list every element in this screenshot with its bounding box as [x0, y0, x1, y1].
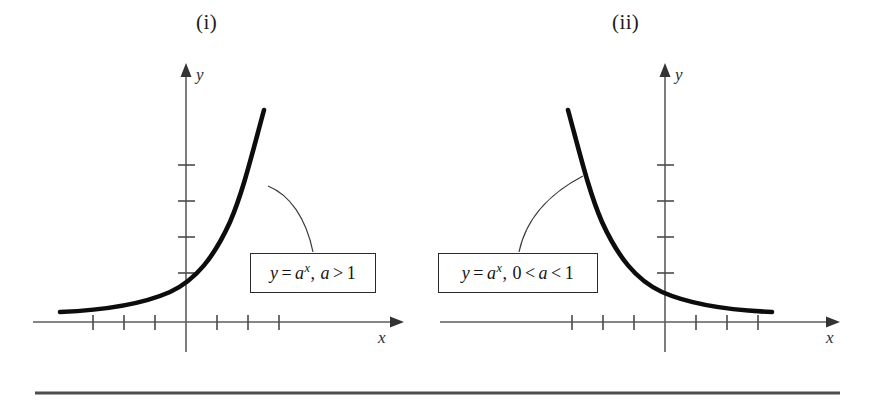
panel-ii-x-axis-label: x	[825, 328, 834, 347]
eq1-cond-rel: >	[330, 263, 347, 283]
panel-i-plot: x y	[33, 63, 404, 352]
eq1-base: a	[295, 263, 305, 283]
panel-i-y-axis-label: y	[194, 65, 204, 84]
equation-box-decreasing: y=ax, 0<a<1	[438, 253, 598, 293]
eq2-cond-rel2: <	[548, 263, 565, 283]
eq1-equals: =	[278, 263, 295, 283]
eq1-cond-left: a	[320, 263, 330, 283]
eq2-cond-lowbound: 0	[512, 263, 522, 283]
panel-ii-x-axis-arrow	[826, 317, 840, 328]
panel-ii-plot: x y	[440, 63, 840, 352]
eq2-cond-upbound: 1	[565, 263, 575, 283]
panel-i-leader-line	[268, 186, 313, 252]
equation-text-decreasing: y=ax, 0<a<1	[462, 263, 574, 284]
panel-ii-exponential-curve	[568, 110, 772, 312]
eq1-cond-right: 1	[347, 263, 357, 283]
panel-ii-leader-line	[519, 176, 583, 252]
panel-i-y-axis-arrow	[181, 63, 192, 77]
figure-canvas: x y x	[0, 0, 872, 404]
eq2-comma: ,	[502, 263, 507, 283]
exponential-functions-figure: (i) (ii) x y	[0, 0, 872, 404]
equation-text-increasing: y=ax, a>1	[270, 263, 356, 284]
eq1-comma: ,	[310, 263, 315, 283]
panel-ii-y-axis-label: y	[673, 65, 683, 84]
eq2-equals: =	[470, 263, 487, 283]
panel-i-x-axis-label: x	[377, 328, 386, 347]
equation-box-increasing: y=ax, a>1	[250, 253, 376, 293]
panel-ii-y-axis-arrow	[660, 63, 671, 77]
panel-i-x-axis-arrow	[390, 317, 404, 328]
eq2-cond-var: a	[539, 263, 549, 283]
eq2-cond-rel1: <	[522, 263, 539, 283]
panel-i-exponential-curve	[60, 110, 264, 312]
